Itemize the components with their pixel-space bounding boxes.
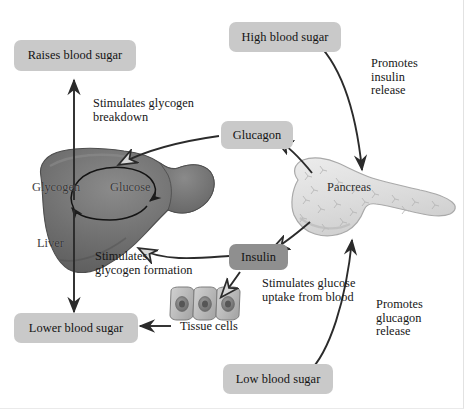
label-tissue-cells: Tissue cells	[180, 319, 238, 334]
label-promotes-glucagon-release: Promotes glucagon release	[376, 298, 423, 339]
label-glycogen: Glycogen	[32, 180, 80, 195]
label-stimulates-glycogen-formation: Stimulates glycogen formation	[95, 250, 193, 277]
box-high-blood-sugar[interactable]: High blood sugar	[229, 22, 341, 52]
label-glucose: Glucose	[110, 180, 151, 195]
arrow-high-sugar-to-pancreas	[312, 38, 362, 170]
label-pancreas: Pancreas	[327, 180, 371, 195]
box-glucagon[interactable]: Glucagon	[221, 121, 293, 149]
box-raises-blood-sugar[interactable]: Raises blood sugar	[14, 40, 136, 71]
label-stimulates-glycogen-breakdown: Stimulates glycogen breakdown	[93, 97, 194, 124]
box-insulin[interactable]: Insulin	[229, 244, 288, 270]
label-promotes-insulin-release: Promotes insulin release	[371, 57, 418, 98]
box-low-blood-sugar[interactable]: Low blood sugar	[223, 364, 333, 394]
tissue-cells-illustration	[170, 287, 240, 320]
box-lower-blood-sugar[interactable]: Lower blood sugar	[14, 313, 138, 343]
glucose-regulation-diagram: Raises blood sugar High blood sugar Gluc…	[0, 0, 464, 409]
label-stimulates-glucose-uptake: Stimulates glucose uptake from blood	[262, 277, 355, 304]
pancreas-illustration	[292, 158, 455, 236]
arrow-low-sugar-to-pancreas	[308, 240, 352, 373]
label-liver: Liver	[37, 236, 64, 251]
